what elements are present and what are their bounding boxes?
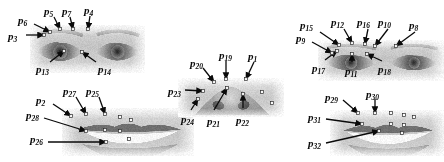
landmark-label-p20: p20	[190, 58, 203, 69]
label-base: p	[312, 62, 318, 74]
label-subscript: 22	[242, 119, 250, 128]
landmark-label-p16: p16	[357, 17, 370, 28]
landmark-label-p1: p1	[248, 51, 257, 62]
landmark-label-p25: p25	[86, 86, 99, 97]
label-subscript: 10	[384, 21, 392, 30]
label-base: p	[30, 133, 36, 145]
landmark-label-p4: p4	[84, 5, 93, 16]
landmark-label-p32: p32	[308, 138, 321, 149]
label-base: p	[190, 57, 196, 69]
label-subscript: 9	[302, 37, 306, 46]
label-base: p	[8, 30, 14, 42]
landmark-label-p28: p28	[26, 110, 39, 121]
landmark-label-p15: p15	[300, 20, 313, 31]
label-base: p	[44, 5, 50, 17]
landmark-label-p22: p22	[236, 115, 249, 126]
landmark-label-p9: p9	[296, 33, 305, 44]
label-subscript: 32	[314, 142, 322, 151]
label-base: p	[409, 19, 415, 31]
label-base: p	[357, 16, 363, 28]
landmark-label-p18: p18	[378, 64, 391, 75]
label-subscript: 13	[42, 68, 50, 77]
landmark-label-p5: p5	[44, 6, 53, 17]
landmark-label-p6: p6	[18, 15, 27, 26]
left-mouth-panel	[62, 108, 194, 156]
landmark-label-p30: p30	[366, 89, 379, 100]
label-base: p	[378, 16, 384, 28]
label-base: p	[325, 91, 331, 103]
label-subscript: 15	[306, 24, 314, 33]
label-base: p	[248, 50, 254, 62]
landmark-label-p19: p19	[219, 50, 232, 61]
label-base: p	[84, 4, 90, 16]
landmark-label-p2: p2	[36, 95, 45, 106]
arrow-p1	[246, 62, 254, 79]
label-subscript: 30	[372, 93, 380, 102]
label-subscript: 4	[90, 9, 94, 18]
label-base: p	[345, 65, 351, 77]
landmark-label-p12: p12	[331, 17, 344, 28]
label-subscript: 20	[196, 62, 204, 71]
landmark-label-p29: p29	[325, 92, 338, 103]
landmark-label-p23: p23	[168, 86, 181, 97]
label-base: p	[18, 14, 24, 26]
label-base: p	[219, 49, 225, 61]
label-base: p	[366, 88, 372, 100]
label-subscript: 6	[24, 19, 28, 28]
label-base: p	[26, 109, 32, 121]
label-subscript: 7	[68, 10, 72, 19]
label-subscript: 31	[314, 116, 322, 125]
label-base: p	[63, 85, 69, 97]
label-base: p	[98, 63, 104, 75]
label-subscript: 18	[384, 68, 392, 77]
label-subscript: 28	[32, 114, 40, 123]
landmark-label-p21: p21	[207, 116, 220, 127]
landmark-label-p14: p14	[98, 64, 111, 75]
label-subscript: 14	[104, 68, 112, 77]
label-subscript: 16	[363, 21, 371, 30]
label-base: p	[207, 115, 213, 127]
label-base: p	[36, 63, 42, 75]
label-subscript: 25	[92, 90, 100, 99]
landmark-label-p31: p31	[308, 112, 321, 123]
label-subscript: 24	[187, 118, 195, 127]
label-subscript: 19	[225, 54, 233, 63]
label-base: p	[236, 114, 242, 126]
landmark-label-p26: p26	[30, 134, 43, 145]
label-subscript: 2	[42, 99, 46, 108]
facial-landmark-figure: p6p5p7p4p3p13p14p2p27p25p28p26p20p19p1p2…	[0, 0, 444, 162]
label-subscript: 12	[337, 21, 345, 30]
landmark-label-p8: p8	[409, 20, 418, 31]
landmark-label-p24: p24	[181, 114, 194, 125]
landmark-label-p17: p17	[312, 63, 325, 74]
label-base: p	[308, 111, 314, 123]
landmark-label-p3: p3	[8, 31, 17, 42]
label-base: p	[181, 113, 187, 125]
label-base: p	[300, 19, 306, 31]
label-subscript: 23	[174, 90, 182, 99]
label-base: p	[62, 5, 68, 17]
label-subscript: 11	[351, 70, 358, 79]
label-subscript: 27	[69, 90, 77, 99]
nose-panel	[178, 78, 284, 117]
right-mouth-panel	[330, 110, 444, 156]
label-subscript: 1	[254, 55, 258, 64]
label-base: p	[168, 85, 174, 97]
label-base: p	[331, 16, 337, 28]
landmark-label-p27: p27	[63, 86, 76, 97]
label-subscript: 8	[415, 24, 419, 33]
label-subscript: 29	[331, 96, 339, 105]
label-subscript: 17	[318, 67, 326, 76]
label-base: p	[36, 94, 42, 106]
landmark-label-p11: p11	[345, 66, 358, 77]
label-base: p	[296, 32, 302, 44]
label-base: p	[308, 137, 314, 149]
landmark-label-p10: p10	[378, 17, 391, 28]
landmark-label-p7: p7	[62, 6, 71, 17]
label-subscript: 26	[36, 138, 44, 147]
label-subscript: 21	[213, 120, 221, 129]
label-subscript: 5	[50, 10, 54, 19]
label-base: p	[86, 85, 92, 97]
landmark-label-p13: p13	[36, 64, 49, 75]
label-base: p	[378, 63, 384, 75]
